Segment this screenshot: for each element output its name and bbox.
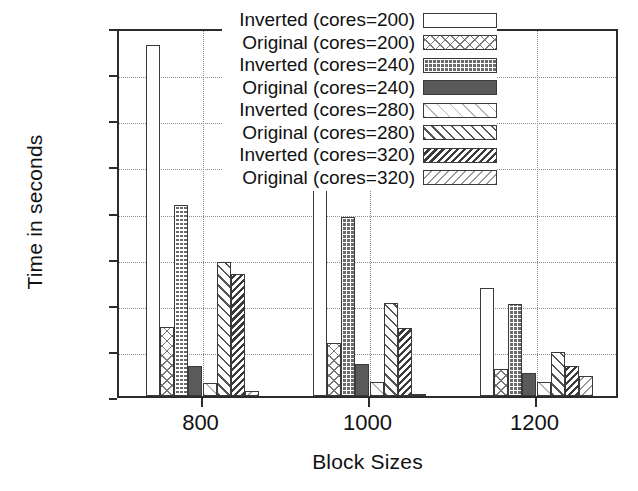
legend-swatch (423, 148, 497, 163)
bar (203, 383, 217, 396)
bar (412, 394, 426, 396)
legend-item-label: Original (cores=200) (242, 32, 415, 54)
x-axis-tick (201, 398, 203, 407)
legend-item-label: Inverted (cores=320) (239, 144, 415, 166)
legend: Inverted (cores=200)Original (cores=200)… (222, 7, 497, 191)
x-axis-tick-label: 800 (146, 410, 256, 436)
legend-item-label: Original (cores=280) (242, 122, 415, 144)
legend-item-label: Original (cores=240) (242, 77, 415, 99)
bar (384, 303, 398, 396)
bar (565, 366, 579, 396)
bar (160, 327, 174, 396)
y-axis-tick (109, 167, 117, 169)
legend-item: Original (cores=240) (222, 77, 497, 100)
bar (480, 288, 494, 396)
bar (174, 205, 188, 396)
legend-swatch (423, 80, 497, 95)
legend-swatch (423, 58, 497, 73)
bar (188, 366, 202, 396)
bar (231, 274, 245, 396)
legend-item-label: Original (cores=320) (242, 167, 415, 189)
legend-swatch (423, 103, 497, 118)
bar (398, 328, 412, 396)
y-axis-tick (109, 121, 117, 123)
bar (327, 343, 341, 396)
bar (494, 369, 508, 396)
y-axis-tick (109, 75, 117, 77)
y-axis-title: Time in seconds (23, 82, 47, 342)
bar (522, 373, 536, 396)
legend-item-label: Inverted (cores=280) (239, 99, 415, 121)
legend-item: Original (cores=280) (222, 122, 497, 145)
bar (551, 352, 565, 396)
legend-swatch (423, 13, 497, 28)
x-axis-tick (368, 398, 370, 407)
bar (537, 382, 551, 396)
legend-swatch (423, 125, 497, 140)
y-axis-tick (109, 398, 117, 400)
x-axis-title: Block Sizes (117, 450, 618, 474)
y-axis-tick (109, 352, 117, 354)
bar (245, 391, 259, 396)
legend-swatch (423, 35, 497, 50)
legend-item: Original (cores=320) (222, 167, 497, 190)
y-axis-tick (109, 306, 117, 308)
legend-item: Inverted (cores=280) (222, 99, 497, 122)
legend-swatch (423, 170, 497, 185)
y-axis-tick (109, 260, 117, 262)
bar (341, 217, 355, 396)
bar (370, 382, 384, 396)
bar (217, 262, 231, 396)
bar (355, 364, 369, 396)
x-axis-tick-label: 1000 (313, 410, 423, 436)
bar-chart-figure: Time in seconds 406080100120140160180200… (0, 0, 638, 491)
legend-item-label: Inverted (cores=240) (239, 54, 415, 76)
bar (508, 304, 522, 396)
bar (146, 45, 160, 396)
y-axis-tick (109, 214, 117, 216)
x-axis-tick (535, 398, 537, 407)
y-axis-tick (109, 29, 117, 31)
legend-item-label: Inverted (cores=200) (239, 9, 415, 31)
x-axis-tick-label: 1200 (480, 410, 590, 436)
legend-item: Original (cores=200) (222, 32, 497, 55)
legend-item: Inverted (cores=240) (222, 54, 497, 77)
legend-item: Inverted (cores=200) (222, 9, 497, 32)
legend-item: Inverted (cores=320) (222, 144, 497, 167)
bar (579, 376, 593, 396)
